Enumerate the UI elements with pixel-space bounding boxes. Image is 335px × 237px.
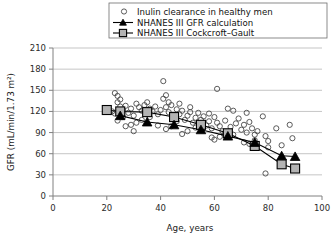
square-marker-icon: [119, 29, 126, 36]
x-tick-label: 20: [101, 203, 112, 213]
x-tick-label: 40: [155, 203, 166, 213]
x-tick-label: 80: [263, 203, 274, 213]
x-tick-label: 0: [50, 203, 55, 213]
x-tick-label: 100: [314, 203, 330, 213]
y-tick-label: 150: [30, 85, 46, 95]
chart-svg: 0306090120150180210 020406080100 GFR (mL…: [0, 0, 335, 237]
legend-label-inulin: Inulin clearance in healthy men: [137, 7, 273, 17]
y-tick-label: 60: [35, 149, 46, 159]
legend-label-gfr-calculation: NHANES III GFR calculation: [137, 18, 253, 28]
y-tick-label: 120: [30, 106, 46, 116]
legend-entry-inulin: Inulin clearance in healthy men: [121, 7, 272, 17]
legend: Inulin clearance in healthy men NHANES I…: [109, 3, 327, 38]
legend-label-cockcroft-gault: NHANES III Cockcroft–Gault: [137, 28, 255, 38]
y-tick-label: 180: [30, 64, 46, 74]
x-tick-label: 60: [209, 203, 220, 213]
cockcroft-gault-marker: [291, 164, 300, 173]
gfr-age-chart: 0306090120150180210 020406080100 GFR (mL…: [0, 0, 335, 237]
y-tick-label: 30: [35, 170, 46, 180]
y-tick-label: 90: [35, 128, 46, 138]
cockcroft-gault-marker: [102, 106, 111, 115]
y-tick-label: 210: [30, 43, 46, 53]
x-axis-title: Age, years: [167, 223, 214, 233]
cockcroft-gault-marker: [277, 160, 286, 169]
y-axis-title: GFR (mL/min/1.73 m²): [6, 73, 16, 171]
cockcroft-gault-marker: [143, 108, 152, 117]
y-tick-label: 0: [41, 191, 46, 201]
